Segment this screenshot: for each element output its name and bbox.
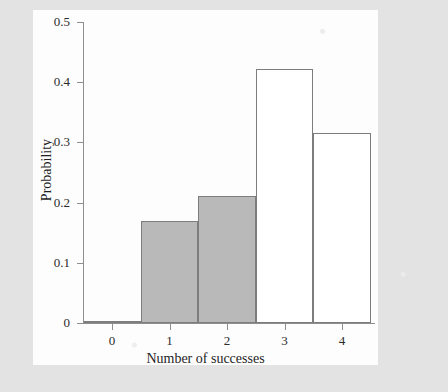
y-tick-mark-4 bbox=[77, 82, 83, 83]
x-tick-mark-1 bbox=[170, 324, 171, 330]
y-tick-label-4: 0.4 bbox=[54, 75, 70, 88]
plot-area: 0 0.1 0.2 0.3 0.4 0.5 0 1 2 3 4 Number o… bbox=[33, 10, 378, 365]
x-tick-mark-4 bbox=[342, 324, 343, 330]
y-tick-label-0: 0 bbox=[64, 316, 71, 329]
x-axis-line bbox=[83, 323, 375, 324]
x-tick-label-1: 1 bbox=[155, 334, 185, 347]
bar-category-1 bbox=[141, 221, 199, 323]
bar-category-2 bbox=[198, 196, 256, 323]
y-tick-label-5: 0.5 bbox=[54, 15, 70, 28]
y-tick-label-2: 0.2 bbox=[54, 196, 70, 209]
bar-category-4 bbox=[313, 133, 371, 323]
x-tick-label-0: 0 bbox=[97, 334, 127, 347]
y-tick-label-3: 0.3 bbox=[54, 135, 70, 148]
x-tick-label-3: 3 bbox=[270, 334, 300, 347]
x-axis-title: Number of successes bbox=[33, 351, 378, 367]
y-tick-label-1: 0.1 bbox=[54, 256, 70, 269]
bar-category-3 bbox=[256, 69, 314, 323]
x-tick-label-2: 2 bbox=[212, 334, 242, 347]
x-tick-mark-2 bbox=[227, 324, 228, 330]
figure-panel: 0 0.1 0.2 0.3 0.4 0.5 0 1 2 3 4 Number o… bbox=[33, 10, 378, 365]
y-tick-mark-5 bbox=[77, 22, 83, 23]
y-axis-title: Probability bbox=[39, 70, 55, 270]
y-tick-mark-0 bbox=[77, 323, 83, 324]
x-tick-mark-3 bbox=[285, 324, 286, 330]
x-tick-label-4: 4 bbox=[327, 334, 357, 347]
x-tick-mark-0 bbox=[112, 324, 113, 330]
y-axis-line bbox=[83, 22, 84, 324]
y-tick-mark-2 bbox=[77, 203, 83, 204]
y-tick-mark-1 bbox=[77, 263, 83, 264]
y-tick-mark-3 bbox=[77, 142, 83, 143]
